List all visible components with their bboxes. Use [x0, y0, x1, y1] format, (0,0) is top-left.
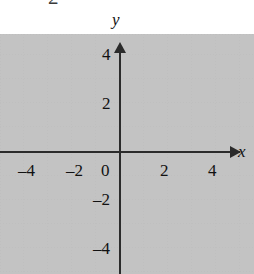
stray-digit-fragment: 2 [48, 0, 59, 8]
grid-line-horizontal [0, 271, 254, 272]
grid-background [0, 34, 254, 274]
y-axis-label: y [112, 11, 120, 28]
y-tick-label-neg2: –2 [93, 191, 110, 208]
y-tick-label-pos2: 2 [102, 95, 111, 112]
x-tick-label-pos2: 2 [160, 162, 169, 179]
x-tick-label-neg2: –2 [66, 162, 83, 179]
grid-line-vertical [0, 34, 1, 274]
y-tick-label-pos4: 4 [102, 46, 111, 63]
grid-line-horizontal [0, 223, 254, 224]
grid-line-vertical [215, 34, 216, 274]
x-axis-label: x [238, 143, 246, 160]
grid-line-horizontal [0, 199, 254, 200]
grid-line-horizontal [0, 34, 254, 35]
x-tick-label-zero: 0 [101, 162, 110, 179]
grid-line-horizontal [0, 54, 254, 55]
grid-line-vertical [95, 34, 96, 274]
grid-line-vertical [23, 34, 24, 274]
grid-line-vertical [167, 34, 168, 274]
coordinate-plane-figure: 2 y x –4 –2 0 2 4 4 2 –2 –4 [0, 0, 254, 274]
x-tick-label-pos4: 4 [208, 162, 217, 179]
x-tick-label-neg4: –4 [18, 162, 35, 179]
y-tick-label-neg4: –4 [93, 240, 110, 257]
grid-line-vertical [143, 34, 144, 274]
grid-line-vertical [191, 34, 192, 274]
grid-line-horizontal [0, 102, 254, 103]
grid-line-vertical [47, 34, 48, 274]
grid-line-horizontal [0, 78, 254, 79]
grid-line-horizontal [0, 126, 254, 127]
grid-line-vertical [71, 34, 72, 274]
y-axis-arrowhead-icon [114, 42, 126, 53]
grid-line-horizontal [0, 247, 254, 248]
y-axis-line [119, 46, 121, 274]
